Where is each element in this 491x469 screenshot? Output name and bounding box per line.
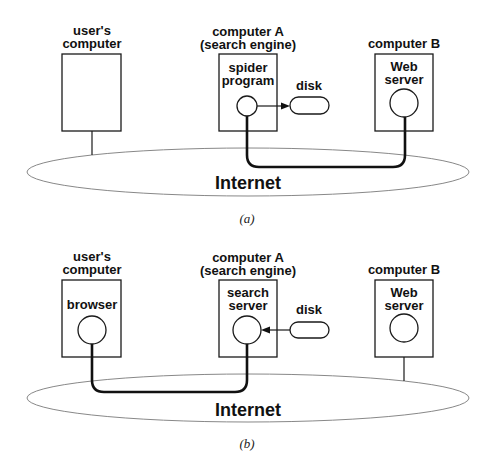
internet-label: Internet (215, 400, 281, 420)
connection-cable-spider-to-webserver (247, 115, 405, 167)
computer-b-label: computer B (368, 262, 440, 277)
disk-label: disk (296, 78, 323, 93)
spider-program-label-line2: program (222, 73, 275, 88)
web-server-process-icon (390, 314, 418, 342)
users-computer-label-line2: computer (62, 36, 121, 51)
search-server-label-line2: server (228, 298, 267, 313)
caption-a: (a) (239, 211, 254, 226)
computer-b-label: computer B (368, 36, 440, 51)
search-engine-architecture-diagram: Internet user's computer computer A (sea… (0, 0, 491, 469)
computer-a-label-line2: (search engine) (200, 263, 296, 278)
users-computer-label-line2: computer (62, 262, 121, 277)
users-computer-box (62, 54, 121, 131)
web-server-process-icon (390, 89, 418, 117)
users-computer: user's computer (62, 23, 122, 155)
arrowhead-icon (261, 327, 270, 334)
computer-a-label-line2: (search engine) (200, 37, 296, 52)
web-server-label-line2: server (384, 72, 423, 87)
disk-icon (290, 322, 329, 338)
computer-b: computer B Web server (368, 262, 440, 381)
internet-label: Internet (215, 173, 281, 193)
disk-label: disk (296, 302, 323, 317)
web-server-label-line2: server (384, 298, 423, 313)
spider-program-process-icon (237, 96, 257, 116)
panel-a: Internet user's computer computer A (sea… (27, 23, 469, 226)
connection-cable-browser-to-search-server (92, 344, 247, 392)
caption-b: (b) (239, 436, 254, 451)
panel-b: Internet user's computer browser compute… (27, 249, 469, 451)
arrowhead-icon (281, 103, 290, 110)
search-server-process-icon (233, 316, 261, 344)
browser-process-icon (78, 316, 106, 344)
computer-b: computer B Web server (368, 36, 440, 131)
browser-label: browser (67, 297, 118, 312)
disk-icon (290, 97, 329, 114)
